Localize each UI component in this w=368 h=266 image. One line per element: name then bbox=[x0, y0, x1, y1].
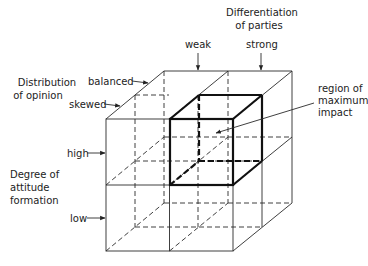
parties-axis-title-line2: of parties bbox=[235, 20, 282, 31]
opinion-axis-title-line2: of opinion bbox=[13, 90, 63, 101]
balanced-arrow-icon bbox=[132, 81, 148, 83]
attitude-axis-title-line2: attitude bbox=[10, 182, 50, 193]
opinion-axis-title-line1: Distribution bbox=[18, 77, 76, 88]
region-of-maximum-impact-cube bbox=[170, 95, 262, 185]
level-low: low bbox=[70, 213, 87, 224]
level-high: high bbox=[67, 148, 89, 159]
attitude-axis-title-line1: Degree of bbox=[10, 169, 60, 180]
region-label-line1: region of bbox=[318, 83, 363, 94]
region-label-line3: impact bbox=[318, 107, 352, 118]
level-skewed: skewed bbox=[69, 99, 106, 110]
region-label-line2: maximum bbox=[318, 95, 368, 106]
level-strong: strong bbox=[246, 39, 278, 50]
cube-diagram: Differentiation of parties weak strong D… bbox=[0, 0, 368, 266]
parties-axis-title-line1: Differentiation bbox=[226, 7, 298, 18]
level-balanced: balanced bbox=[88, 76, 134, 87]
attitude-axis-title-line3: formation bbox=[10, 195, 59, 206]
level-weak: weak bbox=[185, 39, 211, 50]
